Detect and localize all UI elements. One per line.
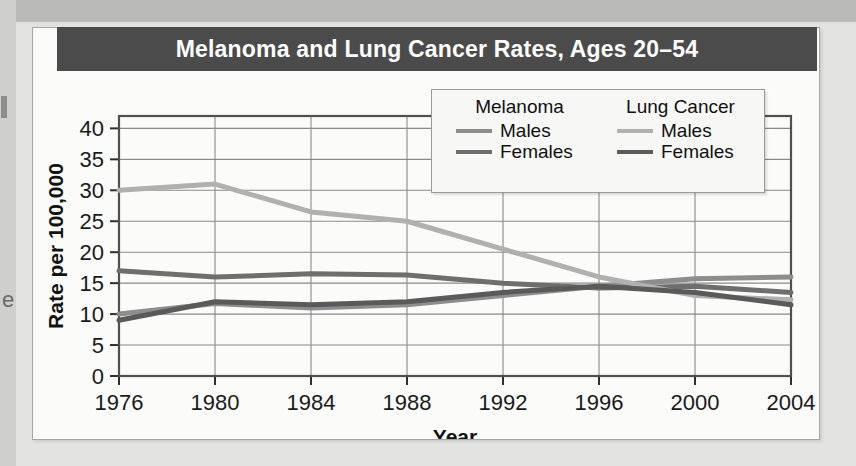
legend-item-lung-cancer-females: Females [607, 142, 754, 162]
title-banner: Melanoma and Lung Cancer Rates, Ages 20–… [57, 27, 817, 71]
x-axis-label: Year [433, 425, 477, 439]
y-tick-label: 20 [80, 240, 104, 265]
y-tick-label: 10 [80, 302, 104, 327]
x-tick-label: 1984 [287, 390, 336, 415]
legend-item-melanoma-males: Males [446, 121, 593, 141]
x-tick-label: 1988 [383, 390, 432, 415]
page-left-margin [0, 0, 16, 466]
legend-swatch-melanoma-females [456, 150, 492, 154]
y-axis-label: Rate per 100,000 [44, 163, 67, 329]
figure-card: Melanoma and Lung Cancer Rates, Ages 20–… [32, 27, 820, 440]
y-tick-label: 25 [80, 209, 104, 234]
x-tick-label: 1976 [95, 390, 144, 415]
legend-swatch-melanoma-males [456, 129, 492, 133]
legend-heading-melanoma: Melanoma [446, 96, 593, 118]
legend-heading-lung-cancer: Lung Cancer [607, 96, 754, 118]
legend-item-melanoma-females: Females [446, 142, 593, 162]
margin-mark-lower: e [2, 290, 12, 310]
legend-group-melanoma: Melanoma Males Females [446, 96, 593, 186]
y-tick-label: 35 [80, 147, 104, 172]
x-tick-label: 1992 [479, 390, 528, 415]
margin-mark-upper [1, 96, 7, 118]
page-top-band [0, 0, 856, 22]
legend-swatch-lung-cancer-females [617, 150, 653, 154]
legend-label-lung-cancer-males: Males [661, 121, 712, 141]
y-tick-label: 0 [92, 364, 104, 389]
legend-item-lung-cancer-males: Males [607, 121, 754, 141]
x-tick-label: 2004 [767, 390, 816, 415]
chart-title: Melanoma and Lung Cancer Rates, Ages 20–… [176, 36, 699, 63]
chart-legend: Melanoma Males Females Lung Cancer Males [431, 89, 765, 193]
y-tick-label: 5 [92, 333, 104, 358]
x-tick-label: 1980 [191, 390, 240, 415]
y-tick-label: 30 [80, 178, 104, 203]
legend-label-lung-cancer-females: Females [661, 142, 734, 162]
series-line-lung-cancer-females [119, 286, 791, 320]
legend-swatch-lung-cancer-males [617, 129, 653, 133]
x-tick-label: 2000 [671, 390, 720, 415]
legend-label-melanoma-females: Females [500, 142, 573, 162]
x-tick-label: 1996 [575, 390, 624, 415]
y-tick-labels: 0510152025303540 [80, 116, 104, 389]
series-line-lung-cancer-males [119, 184, 791, 300]
legend-group-lung-cancer: Lung Cancer Males Females [593, 96, 754, 186]
x-tick-labels: 19761980198419881992199620002004 [95, 390, 816, 415]
legend-label-melanoma-males: Males [500, 121, 551, 141]
y-tick-label: 15 [80, 271, 104, 296]
chart-body: 0510152025303540 19761980198419881992199… [33, 72, 819, 439]
y-tick-label: 40 [80, 116, 104, 141]
